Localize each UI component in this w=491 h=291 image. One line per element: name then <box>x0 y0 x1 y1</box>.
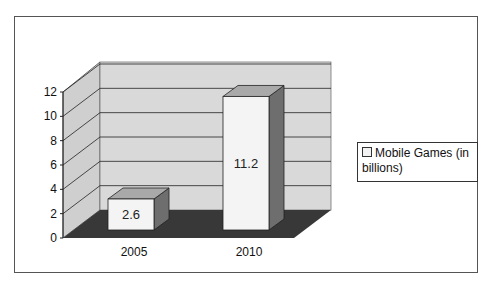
y-tick-label: 10 <box>44 109 58 123</box>
floor <box>63 210 331 238</box>
bar-2010: 11.2 <box>223 85 284 230</box>
data-label: 2.6 <box>122 207 140 222</box>
legend: Mobile Games (in billions) <box>357 142 478 182</box>
y-tick-label: 8 <box>50 134 57 148</box>
y-tick-label: 2 <box>50 207 57 221</box>
legend-swatch <box>362 147 372 157</box>
y-tick-label: 0 <box>50 231 57 245</box>
x-category-label: 2010 <box>236 245 263 259</box>
y-tick-label: 12 <box>44 85 58 99</box>
side-wall <box>63 62 100 238</box>
data-label: 11.2 <box>234 156 258 171</box>
x-axis-labels: 20052010 <box>121 245 263 259</box>
legend-label: Mobile Games (in billions) <box>362 146 469 175</box>
x-category-label: 2005 <box>121 245 148 259</box>
y-tick-label: 4 <box>50 182 57 196</box>
y-axis-ticks: 024681012 <box>44 85 63 245</box>
y-tick-label: 6 <box>50 158 57 172</box>
bar-2005: 2.6 <box>108 188 169 230</box>
